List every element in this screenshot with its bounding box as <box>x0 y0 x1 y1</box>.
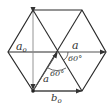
label-b0: bo <box>51 92 62 105</box>
label-a-diagonal: a <box>43 73 49 84</box>
label-angle-lower: 60° <box>50 69 64 78</box>
vertex-dot-bottom-left <box>31 89 35 93</box>
label-a0: ao <box>16 40 27 54</box>
hexagon-diagram: ao a 60° 60° a bo <box>0 0 112 109</box>
label-angle-upper: 60° <box>68 54 82 63</box>
label-a-horizontal: a <box>72 39 79 52</box>
